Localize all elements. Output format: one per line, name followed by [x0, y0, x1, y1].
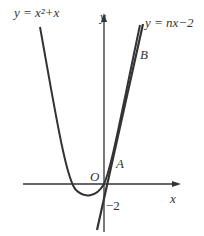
graph: y = x²+x y y = nx−2 B A O x −2 [0, 0, 204, 236]
x-axis-label: x [169, 191, 176, 206]
point-b-label: B [140, 47, 148, 62]
curve-label: y = x²+x [12, 5, 59, 20]
intercept-label: −2 [106, 198, 120, 213]
x-axis-arrow-icon [172, 181, 181, 187]
y-axis-label: y [98, 9, 106, 24]
origin-label: O [90, 169, 100, 184]
line-label: y = nx−2 [143, 15, 194, 30]
point-a-label: A [115, 156, 124, 171]
